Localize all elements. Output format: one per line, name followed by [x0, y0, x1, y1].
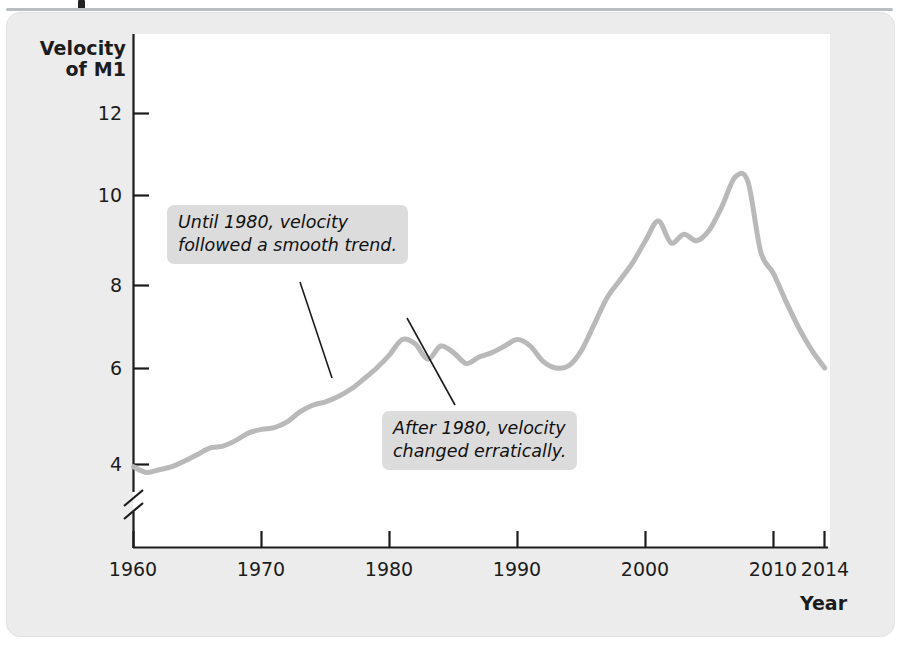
plot-graphics	[0, 0, 899, 651]
x-tick-label-1980: 1980	[354, 558, 424, 580]
y-axis-ticks	[133, 114, 149, 465]
x-axis-ticks	[134, 531, 825, 548]
x-tick-label-1960: 1960	[98, 558, 168, 580]
annotation-callout-post-1980: After 1980, velocity changed erratically…	[382, 411, 577, 470]
y-tick-label-12: 12	[80, 102, 122, 124]
x-tick-label-1990: 1990	[482, 558, 552, 580]
annotation-leader-lines	[300, 282, 455, 405]
figure-velocity-of-m1: Velocity of M1 12 10 8 6 4 1960 1970 198…	[0, 0, 899, 651]
y-axis-title: Velocity of M1	[30, 38, 126, 81]
x-tick-label-2000: 2000	[610, 558, 680, 580]
x-tick-label-1970: 1970	[226, 558, 296, 580]
y-tick-label-4: 4	[80, 453, 122, 475]
x-axis-title: Year	[800, 592, 847, 614]
annotation-callout-pre-1980: Until 1980, velocity followed a smooth t…	[167, 205, 408, 264]
y-tick-label-8: 8	[80, 274, 122, 296]
x-tick-label-2014: 2014	[790, 558, 860, 580]
y-tick-label-6: 6	[80, 357, 122, 379]
y-tick-label-10: 10	[80, 184, 122, 206]
axis-lines	[133, 34, 828, 548]
